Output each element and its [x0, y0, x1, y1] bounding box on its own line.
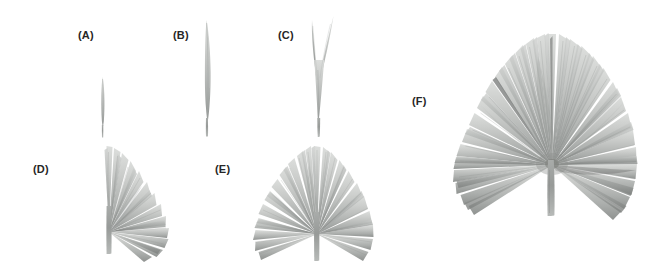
leaf-blade-a [101, 77, 104, 128]
specimen-c [290, 14, 352, 146]
leaf-blade-b [205, 20, 211, 123]
panel-label-a: (A) [78, 29, 94, 41]
specimen-a [88, 75, 118, 145]
panel-label-f: (F) [412, 95, 427, 107]
specimen-e [237, 142, 397, 264]
petiole-b [206, 118, 208, 137]
petiole-e [314, 212, 319, 261]
petiole-f [547, 160, 554, 216]
leaf-blade-f [453, 33, 638, 220]
leaf-blade-d [105, 146, 170, 262]
panel-label-e: (E) [215, 163, 230, 175]
specimen-d [82, 140, 202, 262]
leaf-blade-c [312, 16, 334, 123]
specimen-f [440, 30, 670, 230]
figure-canvas: (A) (B) (C) (D) (E) (F) [0, 0, 671, 267]
panel-label-d: (D) [33, 163, 49, 175]
petiole-a [102, 125, 103, 138]
leaf-blade-e [253, 146, 374, 261]
petiole-d [106, 206, 111, 254]
petiole-c [317, 118, 320, 137]
specimen-b [185, 18, 227, 146]
